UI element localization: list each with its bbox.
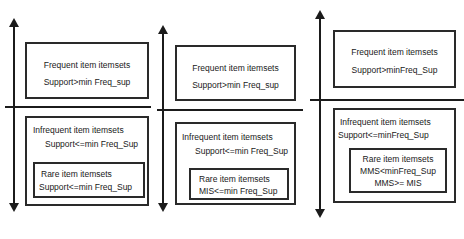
frequent-label-line1: Frequent item itemsets <box>27 60 147 71</box>
rare-label-line1: Rare item itemsets <box>351 154 445 165</box>
infrequent-label-line1: Infrequent item itemsets <box>27 125 147 136</box>
rare-label-line3: MMS>= MIS <box>351 178 445 189</box>
rare-itemsets-box-middle: Rare item itemsets MIS<=min Freq_Sup <box>189 168 289 200</box>
rare-itemsets-box-left: Rare item itemsets Support<=min Freq_Sup <box>33 162 145 198</box>
frequent-label-line2: Support>min Freq_sup <box>27 77 147 88</box>
rare-label-line1: Rare item itemsets <box>35 169 143 180</box>
frequent-itemsets-box-right: Frequent item itemsets Support>minFreq_S… <box>333 30 456 88</box>
infrequent-label-line1: Infrequent item itemsets <box>177 132 294 143</box>
infrequent-label-line2: Support<=minFreq_Sup <box>335 130 454 141</box>
arrow-shaft <box>13 25 15 205</box>
arrow-shaft <box>162 32 164 205</box>
frequent-label-line1: Frequent item itemsets <box>177 63 294 74</box>
support-axis-arrow-left <box>8 18 20 212</box>
frequent-label-line1: Frequent item itemsets <box>335 47 454 58</box>
infrequent-label-line2: Support<=min Freq_Sup <box>177 146 294 157</box>
support-axis-arrow-right <box>314 10 326 218</box>
threshold-divider-left <box>5 106 151 108</box>
infrequent-itemsets-box-middle: Infrequent item itemsets Support<=min Fr… <box>175 122 296 205</box>
arrow-head-down-icon <box>9 203 19 212</box>
rare-label-line1: Rare item itemsets <box>191 174 287 185</box>
threshold-divider-middle <box>157 109 303 111</box>
frequent-itemsets-box-left: Frequent item itemsets Support>min Freq_… <box>25 42 149 99</box>
infrequent-label-line1: Infrequent item itemsets <box>335 117 454 128</box>
rare-label-line2: Support<=min Freq_Sup <box>35 182 143 193</box>
arrow-head-down-icon <box>315 209 325 218</box>
infrequent-itemsets-box-left: Infrequent item itemsets Support<=min Fr… <box>25 116 149 206</box>
arrow-shaft <box>319 17 321 211</box>
panel-left: Frequent item itemsets Support>min Freq_… <box>0 0 155 239</box>
threshold-divider-right <box>310 99 464 101</box>
infrequent-label-line2: Support<=min Freq_Sup <box>27 139 147 150</box>
frequent-itemsets-box-middle: Frequent item itemsets Support>min Freq_… <box>175 45 296 101</box>
frequent-label-line2: Support>min Freq_sup <box>177 80 294 91</box>
support-axis-arrow-middle <box>157 25 169 212</box>
rare-itemsets-box-right: Rare item itemsets MMS<minFreq_Sup MMS>=… <box>349 148 447 193</box>
arrow-head-down-icon <box>158 203 168 212</box>
frequent-label-line2: Support>minFreq_Sup <box>335 65 454 76</box>
rare-label-line2: MIS<=min Freq_Sup <box>191 186 287 197</box>
diagram-canvas: Frequent item itemsets Support>min Freq_… <box>0 0 464 239</box>
rare-label-line2: MMS<minFreq_Sup <box>351 166 445 177</box>
infrequent-itemsets-box-right: Infrequent item itemsets Support<=minFre… <box>333 108 456 203</box>
